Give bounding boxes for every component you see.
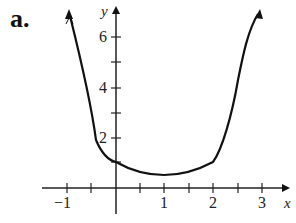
left-arrowhead-icon	[65, 9, 73, 19]
x-tick-label: 1	[160, 194, 168, 211]
x-tick-label: −1	[54, 194, 71, 211]
x-axis-label: x	[283, 195, 291, 211]
x-tick-label: 2	[209, 194, 217, 211]
y-tick-label: 4	[99, 79, 107, 96]
x-tick-label: 3	[258, 194, 266, 211]
chart-plot: −1 1 2 3 2 4 6 x y	[0, 0, 296, 223]
y-tick-label: 2	[99, 129, 107, 146]
y-axis-label: y	[99, 3, 108, 19]
y-tick-label: 6	[99, 28, 107, 45]
right-arrowhead-icon	[255, 9, 263, 19]
